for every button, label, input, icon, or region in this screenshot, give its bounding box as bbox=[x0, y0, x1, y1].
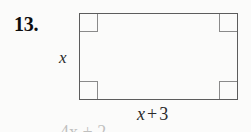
right-angle-marker-bottom-right bbox=[219, 81, 237, 99]
right-angle-marker-top-right bbox=[219, 14, 237, 32]
width-constant: 3 bbox=[159, 104, 168, 124]
rectangle-width-label: x+3 bbox=[137, 105, 168, 123]
right-angle-marker-top-left bbox=[80, 14, 98, 32]
problem-number: 13. bbox=[14, 14, 38, 34]
right-angle-marker-bottom-left bbox=[80, 81, 98, 99]
clipped-next-problem-text: 4x + 2 bbox=[60, 123, 180, 132]
width-operator: + bbox=[145, 104, 159, 124]
height-variable: x bbox=[59, 48, 67, 67]
width-variable: x bbox=[137, 104, 145, 124]
rectangle-height-label: x bbox=[59, 49, 67, 66]
rectangle-shape bbox=[79, 13, 238, 100]
geometry-problem-figure: 13. x x+3 4x + 2 bbox=[0, 0, 251, 132]
